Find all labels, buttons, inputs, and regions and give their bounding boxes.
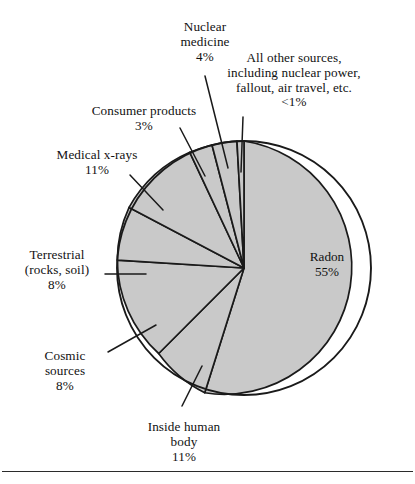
- cosmic-sources-line1: Cosmic: [22, 349, 108, 364]
- nuclear-medicine-line1: Nuclear: [155, 20, 255, 35]
- all-other-sources-line3: fallout, air travel, etc.: [213, 81, 375, 96]
- callout-label-terrestrial: Terrestrial (rocks, soil) 8%: [8, 248, 106, 292]
- consumer-products-line1: Consumer products: [78, 104, 210, 119]
- radon-percent: 55%: [280, 264, 374, 279]
- all-other-sources-line1: All other sources,: [213, 51, 375, 66]
- radon-name: Radon: [280, 249, 374, 264]
- cosmic-sources-percent: 8%: [22, 379, 108, 394]
- callout-label-all-other-sources: All other sources, including nuclear pow…: [213, 51, 375, 110]
- consumer-products-percent: 3%: [78, 119, 210, 134]
- callout-label-medical-xrays: Medical x-rays 11%: [38, 148, 156, 178]
- inside-human-body-percent: 11%: [122, 450, 246, 465]
- inside-human-body-line2: body: [122, 435, 246, 450]
- cosmic-sources-line2: sources: [22, 364, 108, 379]
- terrestrial-percent: 8%: [8, 278, 106, 293]
- terrestrial-line2: (rocks, soil): [8, 263, 106, 278]
- slice-label-radon: Radon 55%: [280, 249, 374, 279]
- bottom-divider: [2, 471, 413, 472]
- terrestrial-line1: Terrestrial: [8, 248, 106, 263]
- callout-label-cosmic-sources: Cosmic sources 8%: [22, 349, 108, 393]
- medical-xrays-line1: Medical x-rays: [38, 148, 156, 163]
- all-other-sources-line2: including nuclear power,: [213, 66, 375, 81]
- pie-chart-figure: Nuclear medicine 4% All other sources, i…: [0, 0, 415, 484]
- nuclear-medicine-line2: medicine: [155, 35, 255, 50]
- callout-label-consumer-products: Consumer products 3%: [78, 104, 210, 134]
- all-other-sources-percent: <1%: [213, 95, 375, 110]
- callout-label-inside-human-body: Inside human body 11%: [122, 420, 246, 464]
- medical-xrays-percent: 11%: [38, 163, 156, 178]
- inside-human-body-line1: Inside human: [122, 420, 246, 435]
